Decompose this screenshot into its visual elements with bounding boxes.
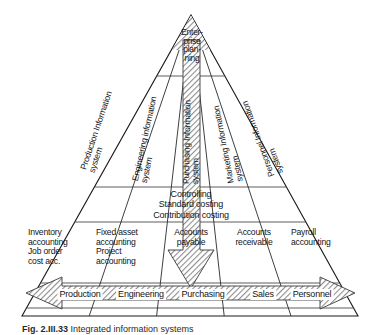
base-segment-purchasing: Purchasing: [179, 289, 226, 300]
cell-accounts-receivable: Accountsreceivable: [235, 228, 272, 247]
cell-accounts-payable: Accountspayable: [174, 228, 208, 247]
base-segment-personnel: Personnel: [291, 289, 334, 300]
figure-caption-text: Integrated information systems: [71, 324, 194, 334]
base-segment-production: Production: [57, 289, 102, 300]
apex-label: Enter-priseplan-ning: [181, 28, 203, 62]
figure-caption: Fig. 2.III.33 Integrated information sys…: [22, 324, 194, 334]
cell-payroll-accounting: Payrollaccounting: [291, 228, 331, 247]
controlling-band-label: ControllingStandard costingContribution …: [153, 189, 229, 220]
figure-root: Enter-priseplan-ning Production Informat…: [0, 0, 369, 335]
base-segment-sales: Sales: [250, 289, 276, 300]
label-purchasing-information-system: Purchasing Informationsystem: [182, 100, 202, 184]
base-segment-engineering: Engineering: [116, 289, 166, 300]
cell-fixed-asset-accounting: Fixed assetaccountingProjectaccounting: [96, 228, 138, 266]
figure-caption-label: Fig. 2.III.33: [22, 324, 68, 334]
cell-inventory-accounting: InventoryaccountingJob ordercost acc.: [28, 228, 68, 266]
